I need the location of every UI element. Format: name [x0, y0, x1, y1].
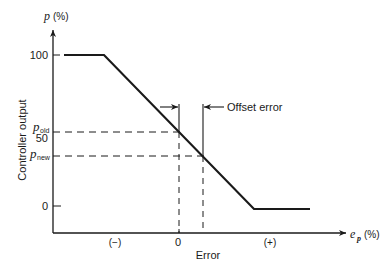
- y-tick-label-100: 100: [30, 49, 48, 61]
- p-old-symbol: p: [32, 119, 40, 134]
- y-axis-label: Controller output: [16, 99, 28, 180]
- y-axis-unit: (%): [53, 11, 69, 22]
- p-new-subscript: new: [37, 154, 51, 161]
- x-axis-unit: (%): [364, 229, 380, 240]
- controller-characteristic-line: [64, 55, 310, 209]
- x-tick-label-zero: 0: [175, 236, 181, 248]
- x-axis-label: Error: [196, 249, 221, 261]
- x-axis-symbol: e: [350, 227, 356, 241]
- p-old-subscript: old: [40, 127, 49, 134]
- p-new-symbol: p: [29, 146, 37, 161]
- y-axis-symbol: p: [43, 9, 50, 23]
- x-axis-subscript: p: [356, 234, 361, 243]
- x-tick-label-positive: (+): [264, 237, 277, 248]
- x-tick-label-negative: (−): [109, 237, 122, 248]
- offset-error-label: Offset error: [227, 101, 283, 113]
- y-tick-label-0: 0: [42, 200, 48, 212]
- controller-output-diagram: p (%) Controller output 100 50 0 p old p…: [0, 0, 390, 271]
